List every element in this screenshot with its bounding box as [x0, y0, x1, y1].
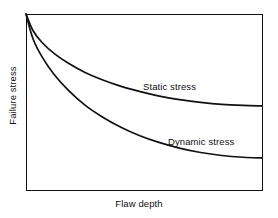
figure-container: Failure stress Flaw depth Static stress …	[0, 0, 278, 218]
plot-area	[0, 0, 278, 218]
axes-frame	[27, 15, 263, 191]
y-axis-label-wrap: Failure stress	[0, 0, 24, 190]
y-axis-label: Failure stress	[7, 66, 18, 124]
annotation-dynamic-stress: Dynamic stress	[168, 136, 234, 147]
annotation-static-stress: Static stress	[143, 81, 196, 92]
x-axis-label: Flaw depth	[0, 198, 278, 209]
